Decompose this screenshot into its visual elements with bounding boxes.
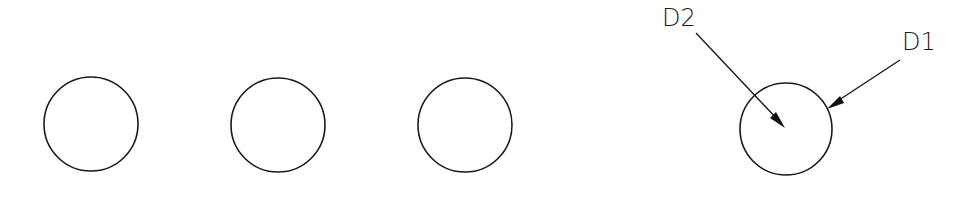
circle-2 xyxy=(231,78,325,172)
leader-line-d1 xyxy=(836,60,900,102)
callout-label-d1: D1 xyxy=(902,28,936,56)
leader-line-d2 xyxy=(696,33,778,120)
circle-3 xyxy=(418,78,512,172)
circle-1 xyxy=(44,77,138,171)
callout-d1: D1 xyxy=(827,28,936,109)
callout-d2: D2 xyxy=(662,4,785,128)
drawing-canvas: D2 D1 xyxy=(0,0,969,198)
circle-4 xyxy=(740,83,832,175)
callout-label-d2: D2 xyxy=(662,4,696,32)
